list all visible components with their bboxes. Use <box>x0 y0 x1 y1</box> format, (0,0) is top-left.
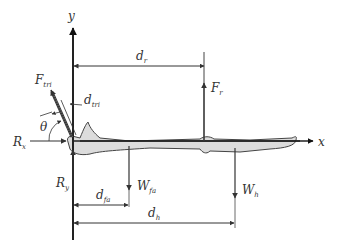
y-axis-label: y <box>67 9 75 23</box>
hand-weight-label: Wh <box>242 183 259 199</box>
x-axis-label: x <box>318 135 325 149</box>
reaction-y-label: Ry <box>55 176 70 192</box>
triceps-distance-label: dtri <box>84 93 100 109</box>
triceps-force-label: Ftri <box>34 73 52 89</box>
free-body-diagram: y x dr Fr Ftri dtri θ Rx Ry <box>0 0 337 245</box>
angle-arc <box>49 121 61 141</box>
radius-distance-label: dr <box>136 49 148 65</box>
forearm-distance-label: dfa <box>96 188 110 204</box>
reaction-x-label: Rx <box>12 135 26 151</box>
forearm-weight-label: Wfa <box>137 179 156 195</box>
angle-label: θ <box>40 120 48 134</box>
hand-distance-label: dh <box>148 206 160 222</box>
radius-force-label: Fr <box>210 81 223 97</box>
forearm-bone <box>67 122 300 155</box>
